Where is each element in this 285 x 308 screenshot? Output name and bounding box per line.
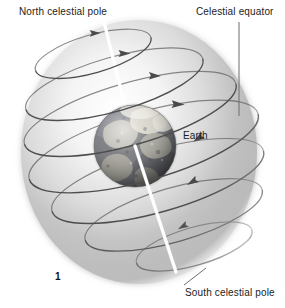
sphere-edge-fade (3, 2, 275, 302)
label-celestial-equator: Celestial equator (196, 7, 274, 17)
label-earth: Earth (183, 131, 208, 141)
celestial-sphere-diagram (0, 0, 285, 308)
label-south-celestial-pole: South celestial pole (185, 288, 275, 298)
celestial-sphere-figure: North celestial pole Celestial equator E… (0, 0, 285, 308)
label-north-celestial-pole: North celestial pole (19, 7, 107, 17)
figure-number: 1 (55, 272, 61, 282)
